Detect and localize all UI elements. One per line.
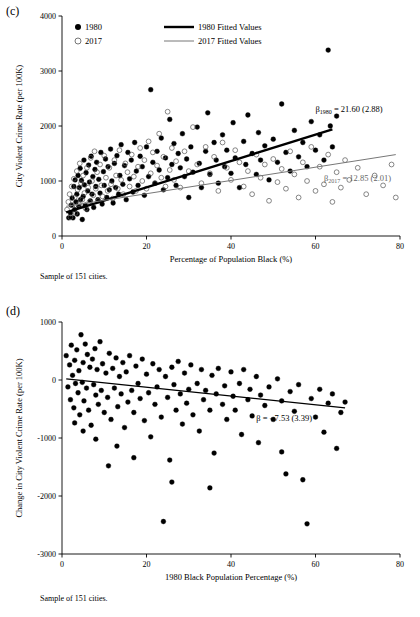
data-point	[109, 179, 114, 184]
data-point	[233, 408, 238, 413]
data-point	[67, 363, 72, 368]
data-point	[182, 149, 187, 154]
data-point	[237, 381, 242, 386]
data-point	[246, 113, 251, 118]
data-point	[93, 393, 98, 398]
data-point	[229, 369, 234, 374]
data-point	[112, 386, 117, 391]
data-point	[77, 412, 82, 417]
x-tick-label: 20	[143, 242, 151, 251]
data-point	[229, 171, 234, 176]
data-point	[262, 403, 267, 408]
data-point	[129, 388, 134, 393]
data-point	[78, 166, 83, 171]
data-point	[159, 175, 164, 180]
x-tick-label: 20	[143, 560, 151, 569]
data-point	[300, 140, 305, 145]
data-point	[220, 140, 225, 145]
data-point	[169, 365, 174, 370]
data-point	[117, 148, 122, 153]
data-point	[101, 169, 106, 174]
data-point	[76, 390, 81, 395]
data-point	[117, 374, 122, 379]
data-point	[64, 353, 69, 358]
data-point	[313, 415, 318, 420]
data-point	[75, 212, 80, 217]
data-point	[246, 169, 251, 174]
data-point	[275, 376, 280, 381]
data-point	[330, 200, 335, 205]
data-point	[288, 389, 293, 394]
data-point	[184, 157, 189, 162]
data-point	[241, 184, 246, 189]
data-point	[98, 339, 103, 344]
data-point	[115, 404, 120, 409]
data-point	[74, 169, 79, 174]
data-point	[186, 195, 191, 200]
data-point	[184, 401, 189, 406]
data-point	[111, 201, 116, 206]
data-point	[222, 383, 227, 388]
data-point	[176, 359, 181, 364]
y-tick-label: 4000	[40, 12, 56, 21]
data-point	[125, 170, 130, 175]
data-point	[292, 128, 297, 133]
data-point	[207, 485, 212, 490]
annotation: β2017 = 12.85 (2.01)	[324, 173, 391, 184]
data-point	[157, 131, 162, 136]
panel-d: (d) 020406080-3000-2000-1000010001980 Bl…	[0, 302, 420, 617]
panel-c-svg: 02040608001000200030004000Percentage of …	[0, 0, 420, 290]
data-point	[178, 165, 183, 170]
data-point	[89, 423, 94, 428]
data-point	[355, 165, 360, 170]
y-tick-label: 0	[52, 232, 56, 241]
data-point	[167, 458, 172, 463]
data-point	[180, 131, 185, 136]
data-point	[322, 158, 327, 163]
data-point	[127, 184, 132, 189]
data-point	[77, 368, 82, 373]
data-point	[73, 381, 78, 386]
data-point	[167, 117, 172, 122]
data-point	[105, 395, 110, 400]
data-point	[343, 158, 348, 163]
data-point	[148, 171, 153, 176]
data-point	[95, 367, 100, 372]
data-point	[334, 170, 339, 175]
data-point	[161, 519, 166, 524]
data-point	[188, 145, 193, 150]
data-point	[288, 149, 293, 154]
data-point	[146, 139, 151, 144]
data-point	[220, 402, 225, 407]
data-point	[84, 170, 89, 175]
data-point	[70, 373, 75, 378]
x-tick-label: 80	[396, 242, 404, 251]
data-point	[92, 149, 97, 154]
data-point	[102, 410, 107, 415]
data-point	[79, 332, 84, 337]
data-point	[100, 361, 105, 366]
data-point	[322, 430, 327, 435]
data-point	[338, 185, 343, 190]
x-tick-label: 60	[312, 242, 320, 251]
data-point	[91, 205, 96, 210]
data-point	[134, 364, 139, 369]
data-point	[99, 388, 104, 393]
data-point	[142, 158, 147, 163]
data-point	[267, 198, 272, 203]
data-point	[81, 429, 86, 434]
data-point	[364, 192, 369, 197]
data-point	[90, 357, 95, 362]
data-point	[127, 353, 132, 358]
data-point	[172, 382, 177, 387]
panel-d-caption: Sample of 151 cities.	[40, 594, 108, 603]
data-point	[176, 151, 181, 156]
data-point	[296, 195, 301, 200]
data-point	[305, 179, 310, 184]
panel-d-svg: 020406080-3000-2000-1000010001980 Black …	[0, 302, 420, 594]
data-point	[243, 162, 248, 167]
y-tick-label: -3000	[37, 550, 56, 559]
y-tick-label: -2000	[37, 492, 56, 501]
data-point	[241, 139, 246, 144]
data-point	[157, 168, 162, 173]
